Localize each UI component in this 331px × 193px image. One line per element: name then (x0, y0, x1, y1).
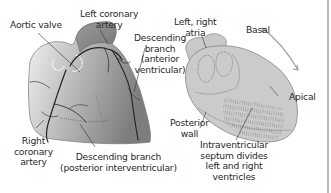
label-atria: Left, right atria (174, 17, 217, 38)
label-descending-branch-anterior: Descending branch (anterior ventricular) (134, 33, 186, 75)
label-aortic-valve: Aortic valve (10, 20, 62, 31)
label-line: Intraventricular (200, 140, 268, 151)
label-descending-branch-posterior: Descending branch (posterior interventri… (60, 152, 177, 173)
label-posterior-wall: Posterior wall (170, 118, 209, 139)
label-line: (anterior (134, 54, 186, 65)
label-line: ventricular) (134, 65, 186, 76)
label-line: artery (80, 20, 138, 31)
label-line: ventricles (200, 172, 268, 183)
label-basal: Basal (246, 25, 270, 36)
right-edge-divider (327, 0, 329, 193)
label-line: Left, right (174, 17, 217, 28)
label-line: Descending branch (60, 152, 177, 163)
label-line: Left coronary (80, 9, 138, 20)
label-apical: Apical (289, 92, 316, 103)
label-line: wall (170, 129, 209, 140)
label-line: atria (174, 28, 217, 39)
label-septum: Intraventricular septum divides left and… (200, 140, 268, 182)
anterior-heart (29, 22, 151, 144)
heart-diagram: Aortic valve Left coronary artery Descen… (0, 0, 331, 193)
label-line: Posterior (170, 118, 209, 129)
label-line: (posterior interventricular) (60, 163, 177, 174)
label-line: left and right (200, 161, 268, 172)
label-line: artery (14, 157, 53, 168)
label-left-coronary-artery: Left coronary artery (80, 9, 138, 30)
label-right-coronary-artery: Right coronary artery (14, 136, 53, 168)
label-line: Right (14, 136, 53, 147)
